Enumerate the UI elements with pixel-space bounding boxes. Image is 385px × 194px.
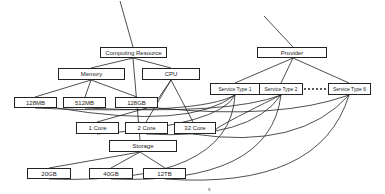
node-memory: Memory bbox=[58, 68, 125, 80]
node-computing-resource: Computing Resource bbox=[100, 47, 167, 58]
svg-text:s: s bbox=[208, 186, 211, 192]
node-storage: Storage bbox=[109, 140, 177, 152]
node-service-type-2: Service Type 2 bbox=[259, 83, 303, 95]
node-provider: Provider bbox=[257, 47, 327, 58]
node-128mb: 128MB bbox=[14, 97, 57, 108]
node-512mb: 512MB bbox=[63, 97, 106, 108]
node-service-type-1: Service Type 1 bbox=[210, 83, 260, 95]
diagram-edges: s bbox=[0, 0, 385, 194]
node-128gb: 128GB bbox=[115, 97, 158, 108]
node-32-core: 32 Core bbox=[174, 122, 216, 134]
node-20gb: 20GB bbox=[27, 168, 71, 179]
node-1-core: 1 Core bbox=[76, 122, 119, 134]
node-service-type-6: Service Type 6 bbox=[328, 83, 371, 95]
node-cpu: CPU bbox=[142, 68, 200, 80]
node-40gb: 40GB bbox=[89, 168, 133, 179]
node-2-core: 2 Core bbox=[125, 122, 168, 134]
node-12tb: 12TB bbox=[143, 168, 186, 179]
